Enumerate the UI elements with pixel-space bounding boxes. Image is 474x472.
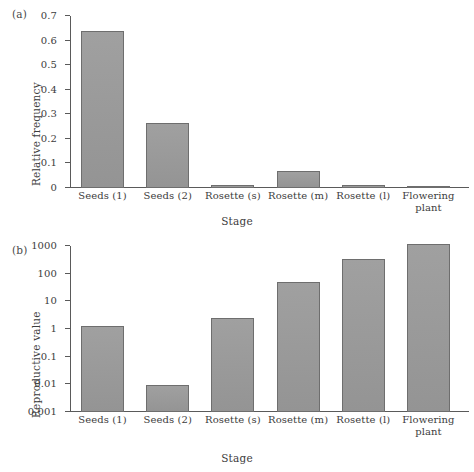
x-tick-label: Rosette (m) xyxy=(266,414,331,438)
bar-slot xyxy=(135,246,200,412)
bar xyxy=(146,385,189,412)
panel-b-y-tick-label: 1000 xyxy=(31,240,57,251)
bar-slot xyxy=(396,16,461,188)
panel-b-y-axis-label: Reproductive value xyxy=(30,311,42,418)
bar xyxy=(342,259,385,412)
panel-a-y-tick-label: 0.6 xyxy=(41,34,57,45)
bar-slot xyxy=(396,246,461,412)
bar xyxy=(211,185,254,188)
panel-a-y-tick-label: 0.3 xyxy=(41,108,57,119)
panel-b-plot-area: 0.0010.010.11101001000 xyxy=(70,246,461,412)
panel-b: (b) Reproductive value 0.0010.010.111010… xyxy=(0,236,474,472)
panel-b-y-tick-label: 0.001 xyxy=(28,406,57,417)
bar xyxy=(211,318,254,412)
bar-slot xyxy=(200,246,265,412)
panel-b-x-tick-labels: Seeds (1)Seeds (2)Rosette (s)Rosette (m)… xyxy=(70,414,461,438)
x-tick-label: Rosette (l) xyxy=(331,414,396,438)
panel-a-y-tick-label: 0.4 xyxy=(41,83,57,94)
x-tick-label: Rosette (s) xyxy=(200,414,265,438)
panel-a-plot-area: 00.10.20.30.40.50.60.7 xyxy=(70,16,461,188)
bar xyxy=(277,282,320,412)
bar xyxy=(81,31,124,188)
bar-slot xyxy=(331,246,396,412)
x-tick-label: Seeds (2) xyxy=(135,414,200,438)
bar xyxy=(342,185,385,188)
panel-b-y-tick-label: 10 xyxy=(44,295,57,306)
panel-a-y-tick-label: 0.1 xyxy=(41,157,57,168)
bar xyxy=(146,123,189,188)
panel-b-tag: (b) xyxy=(12,244,28,256)
panel-a-y-tick-label: 0 xyxy=(51,182,57,193)
x-tick-label: Floweringplant xyxy=(396,190,461,214)
bar xyxy=(277,171,320,188)
bar-slot xyxy=(70,16,135,188)
bar-slot xyxy=(266,16,331,188)
panel-a-x-axis-label: Stage xyxy=(0,215,474,227)
panel-b-x-axis-label: Stage xyxy=(0,452,474,464)
figure-two-panel-bar-charts: (a) Relative frequency 00.10.20.30.40.50… xyxy=(0,0,474,472)
x-tick-label: Rosette (l) xyxy=(331,190,396,214)
panel-b-y-tick-label: 0.01 xyxy=(34,378,57,389)
x-tick-label: Seeds (1) xyxy=(70,414,135,438)
panel-a-y-tick-label: 0.5 xyxy=(41,59,57,70)
bar-slot xyxy=(331,16,396,188)
panel-b-bars xyxy=(70,246,461,412)
panel-a-y-tick-label: 0.2 xyxy=(41,132,57,143)
panel-b-y-tick-label: 0.1 xyxy=(41,350,57,361)
x-tick-label: Seeds (2) xyxy=(135,190,200,214)
panel-a-y-tick-label: 0.7 xyxy=(41,10,57,21)
panel-a-x-tick-labels: Seeds (1)Seeds (2)Rosette (s)Rosette (m)… xyxy=(70,190,461,214)
x-tick-label: Rosette (m) xyxy=(266,190,331,214)
bar-slot xyxy=(266,246,331,412)
x-tick-label: Seeds (1) xyxy=(70,190,135,214)
panel-a: (a) Relative frequency 00.10.20.30.40.50… xyxy=(0,0,474,236)
panel-a-bars xyxy=(70,16,461,188)
bar xyxy=(407,244,450,412)
x-tick-label: Floweringplant xyxy=(396,414,461,438)
bar-slot xyxy=(200,16,265,188)
bar-slot xyxy=(135,16,200,188)
panel-b-y-tick-label: 1 xyxy=(51,323,57,334)
bar xyxy=(407,186,450,188)
panel-b-y-tick-label: 100 xyxy=(38,267,57,278)
x-tick-label: Rosette (s) xyxy=(200,190,265,214)
bar-slot xyxy=(70,246,135,412)
bar xyxy=(81,326,124,412)
panel-a-tag: (a) xyxy=(12,8,27,20)
